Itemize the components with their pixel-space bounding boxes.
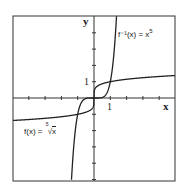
- root-index: 5: [46, 121, 49, 127]
- y-axis-label: y: [83, 15, 89, 27]
- x-tick-label-1: 1: [107, 101, 112, 112]
- x-axis-label: x: [163, 100, 169, 112]
- radicand: x: [52, 126, 56, 136]
- inverse-label-text: f⁻¹(x) = x: [118, 30, 149, 39]
- function-label: f(x) = 5√x: [24, 127, 56, 136]
- y-tick-label-1: 1: [84, 76, 89, 87]
- plot-area: [0, 0, 182, 189]
- inverse-function-label: f⁻¹(x) = x5: [118, 28, 153, 39]
- inverse-label-exponent: 5: [149, 28, 152, 34]
- function-label-text: f(x) =: [24, 127, 45, 136]
